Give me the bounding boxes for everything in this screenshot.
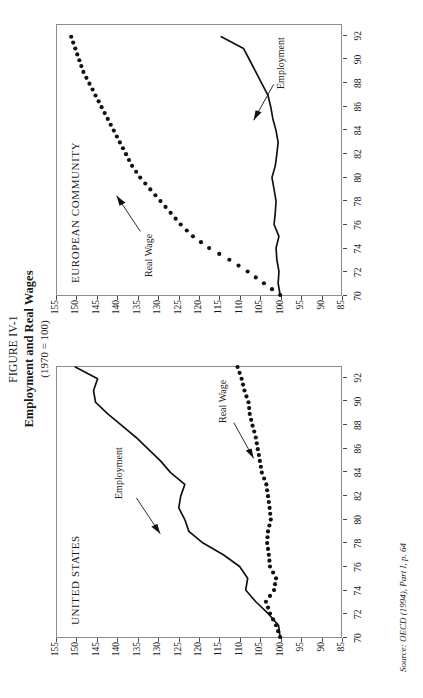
y-axis-tick-mark (342, 296, 343, 300)
annotation-arrow-ec-real-wage (117, 196, 141, 232)
data-point (274, 623, 278, 627)
x-axis-tick-mark (343, 519, 347, 520)
x-axis-tick-mark (343, 224, 347, 225)
y-axis-tick-label: 155 (51, 642, 61, 656)
x-axis-tick-label: 84 (353, 468, 363, 478)
y-axis-ec: 1551501451401351301251201151101051009590… (56, 296, 342, 330)
data-point (266, 547, 270, 551)
data-point (258, 459, 262, 463)
data-point (264, 600, 268, 604)
data-point (256, 447, 260, 451)
panel-european-community: 1551501451401351301251201151101051009590… (56, 14, 374, 330)
data-point (79, 64, 83, 68)
x-axis-tick-mark (343, 590, 347, 591)
x-axis-tick-label: 70 (353, 291, 363, 301)
data-point (267, 523, 271, 527)
x-axis-tick-mark (343, 58, 347, 59)
data-point (242, 388, 246, 392)
data-point (153, 193, 157, 197)
y-axis-tick-mark (117, 638, 118, 642)
data-point (271, 570, 275, 574)
annotation-us-employment: Employment (113, 447, 124, 499)
x-axis-tick-mark (343, 177, 347, 178)
y-axis-tick-label: 100 (276, 300, 286, 314)
data-point (236, 264, 240, 268)
data-point (268, 611, 272, 615)
data-point (252, 429, 256, 433)
y-axis-tick-mark (240, 638, 241, 642)
y-axis-tick-label: 150 (72, 300, 82, 314)
series-svg-us (57, 367, 341, 637)
y-axis-tick-mark (301, 296, 302, 300)
data-point (217, 252, 221, 256)
data-point (90, 87, 94, 91)
y-axis-tick-label: 115 (215, 642, 225, 656)
annotation-arrow-us-employment (136, 498, 160, 534)
x-axis-tick-label: 76 (353, 562, 363, 572)
data-point (267, 559, 271, 563)
data-point (121, 146, 125, 150)
x-axis-tick-label: 86 (353, 444, 363, 454)
x-axis-us: 707274767880828486889092 (343, 366, 373, 638)
data-point (278, 635, 282, 639)
y-axis-tick-label: 100 (276, 642, 286, 656)
data-point (244, 394, 248, 398)
x-axis-tick-label: 72 (353, 610, 363, 620)
y-axis-tick-label: 135 (133, 300, 143, 314)
x-axis-tick-mark (343, 424, 347, 425)
data-point (84, 76, 88, 80)
data-point (260, 471, 264, 475)
data-point (259, 465, 263, 469)
data-point (127, 158, 131, 162)
x-axis-tick-label: 82 (353, 149, 363, 159)
data-point (246, 400, 250, 404)
data-point (274, 576, 278, 580)
data-point (265, 541, 269, 545)
x-axis-tick-label: 92 (353, 31, 363, 41)
us-real-wage-dots (235, 365, 282, 639)
annotation-arrow-us-real-wage (234, 423, 254, 459)
data-point (158, 199, 162, 203)
data-point (268, 512, 272, 516)
data-point (199, 240, 203, 244)
y-axis-tick-label: 85 (337, 300, 347, 310)
y-axis-tick-label: 120 (194, 300, 204, 314)
data-point (124, 152, 128, 156)
data-point (179, 222, 183, 226)
y-axis-tick-label: 130 (153, 300, 163, 314)
y-axis-tick-label: 155 (51, 300, 61, 314)
data-point (227, 258, 231, 262)
data-point (87, 82, 91, 86)
data-point (148, 187, 152, 191)
data-point (77, 58, 81, 62)
y-axis-tick-mark (199, 638, 200, 642)
y-axis-tick-label: 90 (317, 300, 327, 310)
y-axis-tick-label: 140 (113, 642, 123, 656)
data-point (249, 418, 253, 422)
data-point (262, 281, 266, 285)
data-point (71, 40, 75, 44)
data-point (134, 170, 138, 174)
data-point (207, 246, 211, 250)
data-point (254, 435, 258, 439)
data-point (248, 412, 252, 416)
data-point (246, 269, 250, 273)
data-point (69, 35, 73, 39)
x-axis-tick-label: 74 (353, 244, 363, 254)
y-axis-tick-mark (260, 296, 261, 300)
data-point (269, 517, 273, 521)
figure-subtitle: (1970 = 100) (37, 0, 51, 698)
data-point (103, 111, 107, 115)
x-axis-tick-label: 76 (353, 220, 363, 230)
figure-header: FIGURE IV-1 Employment and Real Wages (1… (6, 0, 51, 698)
y-axis-tick-mark (179, 638, 180, 642)
data-point (143, 181, 147, 185)
y-axis-tick-mark (219, 296, 220, 300)
y-axis-tick-label: 115 (215, 300, 225, 314)
data-point (262, 476, 266, 480)
y-axis-tick-mark (322, 638, 323, 642)
x-axis-tick-mark (343, 613, 347, 614)
x-axis-tick-label: 88 (353, 420, 363, 430)
data-point (130, 164, 134, 168)
y-axis-us: 1551501451401351301251201151101051009590… (56, 638, 342, 672)
